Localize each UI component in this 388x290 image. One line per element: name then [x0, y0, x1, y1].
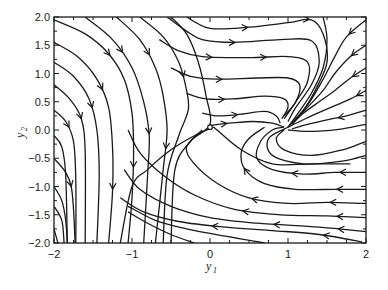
phase-portrait-chart: −2−1012 −2.0−1.5−1.0−0.50.00.51.01.52.0 …	[0, 0, 388, 290]
y-tick-label: 0.5	[35, 96, 50, 108]
svg-text:2: 2	[20, 127, 29, 131]
svg-text:1: 1	[213, 266, 217, 275]
y-tick-label: −1.5	[28, 209, 50, 221]
y-tick-label: 1.0	[35, 68, 50, 80]
x-tick-label: −2	[48, 248, 61, 260]
equilibrium-marker	[208, 125, 213, 130]
y-tick-label: 2.0	[35, 11, 50, 23]
y-tick-label: −0.5	[28, 152, 50, 164]
x-tick-label: 2	[363, 248, 369, 260]
y-axis-label: y 2	[13, 127, 29, 139]
x-axis-label: y 1	[205, 259, 217, 275]
annotations	[208, 125, 213, 130]
svg-text:y: y	[205, 259, 212, 273]
y-tick-label: −1.0	[28, 181, 50, 193]
svg-text:y: y	[13, 132, 27, 139]
x-tick-label: −1	[126, 248, 139, 260]
y-tick-label: 1.5	[35, 39, 50, 51]
y-tick-label: 0.0	[35, 124, 50, 136]
x-tick-label: 1	[285, 248, 291, 260]
y-tick-labels: −2.0−1.5−1.0−0.50.00.51.01.52.0	[28, 11, 50, 249]
y-tick-label: −2.0	[28, 237, 50, 249]
